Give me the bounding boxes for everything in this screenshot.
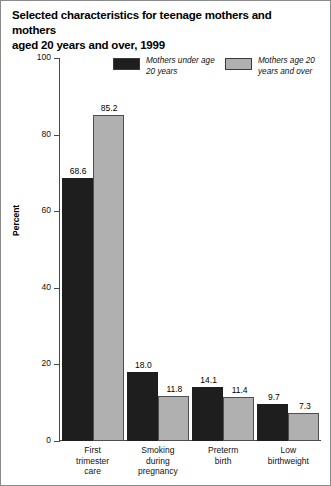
y-axis-tick-label: 80 — [11, 130, 51, 139]
bar-value-label: 85.2 — [87, 104, 132, 113]
x-axis-category-label-line: Low — [281, 445, 297, 455]
x-axis-category-label-line: birthweight — [268, 456, 309, 466]
x-axis-category-label-line: during — [146, 456, 170, 466]
x-axis-category-label: Lowbirthweight — [248, 445, 328, 466]
bar-value-label: 11.8 — [152, 385, 197, 394]
bar-value-label: 14.1 — [186, 376, 231, 385]
bar-group: 9.77.3 — [257, 58, 319, 441]
plot-area: 100806040200 Percent 68.685.218.011.814.… — [59, 58, 321, 441]
x-axis-category-label-line: birth — [215, 456, 232, 466]
bar-group: 68.685.2 — [62, 58, 124, 441]
chart-figure: Selected characteristics for teenage mot… — [0, 0, 331, 486]
y-axis-tick-labels: 100806040200 — [11, 58, 51, 441]
x-axis-category-label-line: trimester — [76, 456, 109, 466]
bar: 18.0 — [127, 372, 158, 441]
y-axis-tick-label: 0 — [11, 436, 51, 445]
y-axis-tick-label: 100 — [11, 53, 51, 62]
x-axis-category-label-line: pregnancy — [138, 466, 178, 476]
y-axis-title: Percent — [11, 205, 21, 236]
y-axis-tick-label: 20 — [11, 359, 51, 368]
bar: 7.3 — [288, 413, 319, 441]
x-axis-category-label-line: care — [84, 466, 101, 476]
bar: 14.1 — [192, 387, 223, 441]
bar-group: 18.011.8 — [127, 58, 189, 441]
bar: 68.6 — [62, 178, 93, 441]
bar: 11.4 — [223, 397, 254, 441]
bar-groups: 68.685.218.011.814.111.49.77.3 — [60, 58, 321, 441]
x-axis-category-label-line: First — [84, 445, 101, 455]
x-axis-category-labels: FirsttrimestercareSmokingduringpregnancy… — [60, 445, 321, 485]
bar-value-label: 18.0 — [121, 361, 166, 370]
bar-group: 14.111.4 — [192, 58, 254, 441]
chart-title-line-2: aged 20 years and over, 1999 — [12, 39, 165, 51]
x-axis-category-label-line: Preterm — [208, 445, 238, 455]
bar-value-label: 9.7 — [251, 393, 296, 402]
bar-value-label: 7.3 — [282, 402, 327, 411]
y-axis-tick — [54, 441, 60, 442]
y-axis-tick-label: 40 — [11, 283, 51, 292]
bar: 85.2 — [93, 115, 124, 441]
bar: 11.8 — [158, 396, 189, 441]
chart-title-line-1: Selected characteristics for teenage mot… — [12, 9, 271, 36]
x-axis-category-label-line: Smoking — [141, 445, 174, 455]
chart-title: Selected characteristics for teenage mot… — [12, 8, 317, 53]
